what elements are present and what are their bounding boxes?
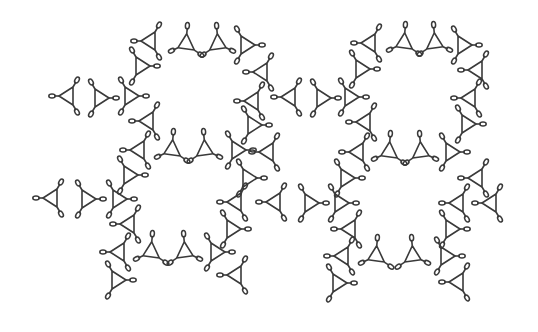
triangle-unit-icon [363,129,408,178]
triangle-unit-icon [33,178,65,218]
triangle-unit-icon [125,229,170,278]
triangle-unit-icon [129,101,161,141]
triangle-unit-icon [106,179,138,219]
triangle-unit-icon [185,127,230,176]
triangle-unit-icon [234,25,266,65]
triangle-unit-icon [234,81,266,121]
triangle-unit-icon [378,20,423,69]
triangle-unit-icon [458,158,490,198]
triangle-unit-icon [458,50,490,90]
triangle-unit-icon [105,260,137,300]
triangle-unit-icon [451,25,483,65]
triangle-unit-icon [236,158,268,198]
triangle-unit-icon [310,78,342,118]
triangle-unit-icon [88,78,120,118]
triangle-unit-icon [346,102,378,142]
triangle-unit-icon [439,132,471,172]
triangle-unit-icon [204,232,236,272]
triangle-unit-icon [217,255,249,295]
triangle-unit-icon [339,132,371,172]
triangle-units [33,20,504,303]
triangle-unit-icon [271,77,303,117]
triangle-unit-icon [451,78,483,118]
triangle-unit-icon [146,127,191,176]
triangle-unit-icon [349,49,381,89]
triangle-unit-icon [120,130,152,170]
triangle-unit-icon [455,104,487,144]
triangle-unit-icon [472,183,504,223]
triangle-unit-icon [415,20,460,69]
triangle-unit-icon [256,182,288,222]
triangle-unit-icon [75,179,107,219]
triangle-unit-icon [217,182,249,222]
triangle-network-diagram [0,0,538,332]
triangle-unit-icon [160,21,205,70]
triangle-unit-icon [165,229,210,278]
triangle-unit-icon [393,233,438,282]
triangle-unit-icon [334,158,366,198]
triangle-unit-icon [100,232,132,272]
triangle-unit-icon [220,209,252,249]
triangle-unit-icon [439,262,471,302]
triangle-unit-icon [328,183,360,223]
triangle-unit-icon [198,21,243,70]
triangle-unit-icon [243,52,275,92]
triangle-unit-icon [434,236,466,276]
triangle-unit-icon [49,76,81,116]
triangle-unit-icon [241,105,273,145]
triangle-unit-icon [331,209,363,249]
triangle-unit-icon [298,183,330,223]
triangle-unit-icon [351,23,383,63]
triangle-unit-icon [117,155,149,195]
